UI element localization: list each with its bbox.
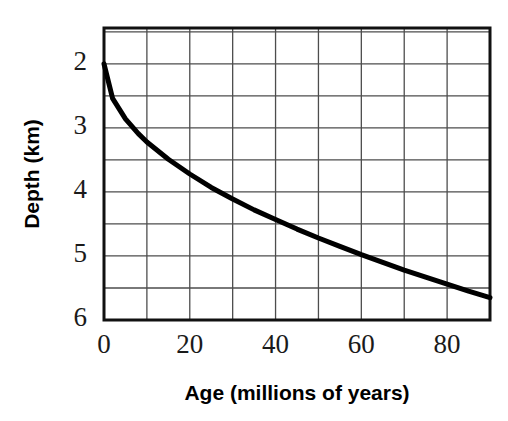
- x-tick-label: 20: [176, 329, 203, 359]
- y-tick-label: 4: [74, 174, 88, 204]
- y-axis-title: Depth (km): [20, 119, 43, 229]
- y-tick-label: 6: [74, 302, 88, 332]
- x-tick-label: 40: [262, 329, 289, 359]
- x-tick-label: 0: [97, 329, 111, 359]
- y-tick-label: 3: [74, 110, 88, 140]
- x-tick-label: 80: [434, 329, 461, 359]
- y-tick-label: 2: [74, 46, 88, 76]
- chart-figure: 020406080 23456 Age (millions of years) …: [0, 0, 508, 421]
- x-tick-label: 60: [348, 329, 375, 359]
- x-axis-title: Age (millions of years): [184, 381, 409, 404]
- depth-vs-age-line-chart: 020406080 23456 Age (millions of years) …: [0, 0, 508, 421]
- y-tick-label: 5: [74, 238, 88, 268]
